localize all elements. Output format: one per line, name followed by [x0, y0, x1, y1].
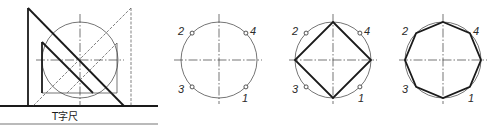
label-1: 1 [468, 92, 474, 104]
panel-d-inscribed-octagon: 2 4 3 1 [399, 14, 487, 104]
label-3: 3 [178, 83, 185, 95]
panel-c-inscribed-square: 2 4 3 1 [289, 14, 377, 104]
label-4: 4 [250, 25, 256, 37]
panel-a-tsquare-setup: T字尺 [0, 8, 158, 124]
label-2: 2 [177, 25, 184, 37]
point-1 [244, 85, 248, 89]
label-3: 3 [292, 83, 299, 95]
label-4: 4 [364, 25, 370, 37]
label-1: 1 [358, 92, 364, 104]
panel-b-circle-points: 2 4 3 1 [174, 14, 262, 104]
label-2: 2 [401, 25, 408, 37]
point-4 [244, 31, 248, 35]
label-3: 3 [402, 83, 409, 95]
label-4: 4 [473, 25, 479, 37]
set-square-45-mirrored [33, 8, 131, 106]
label-1: 1 [242, 92, 248, 104]
t-square-label: T字尺 [51, 110, 78, 122]
octagon-construction-diagram: T字尺 2 4 [0, 0, 487, 130]
label-2: 2 [291, 25, 298, 37]
point-3 [190, 85, 194, 89]
t-square-ruler: T字尺 [0, 106, 158, 124]
point-2 [190, 31, 194, 35]
